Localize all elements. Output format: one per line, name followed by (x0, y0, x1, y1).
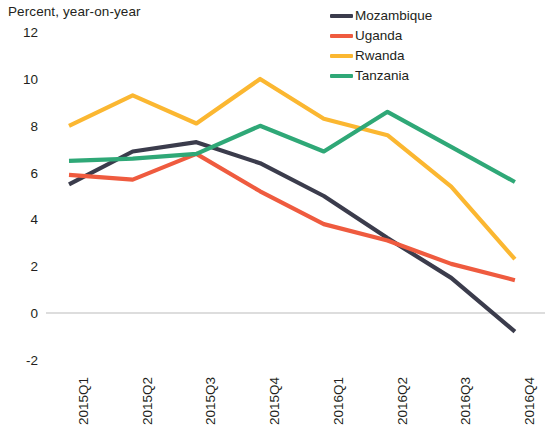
x-axis-tick-label: 2016Q2 (395, 377, 410, 425)
x-axis-tick-label: 2015Q4 (267, 377, 282, 425)
x-axis-ticks: 2015Q12015Q22015Q32015Q42016Q12016Q22016… (0, 0, 549, 438)
x-axis-tick-label: 2016Q4 (522, 377, 537, 425)
x-axis-tick-label: 2015Q2 (140, 377, 155, 425)
x-axis-tick-label: 2015Q3 (203, 377, 218, 425)
line-chart: Percent, year-on-year MozambiqueUgandaRw… (0, 0, 549, 438)
x-axis-tick-label: 2016Q3 (458, 377, 473, 425)
x-axis-tick-label: 2016Q1 (331, 377, 346, 425)
x-axis-tick-label: 2015Q1 (76, 377, 91, 425)
